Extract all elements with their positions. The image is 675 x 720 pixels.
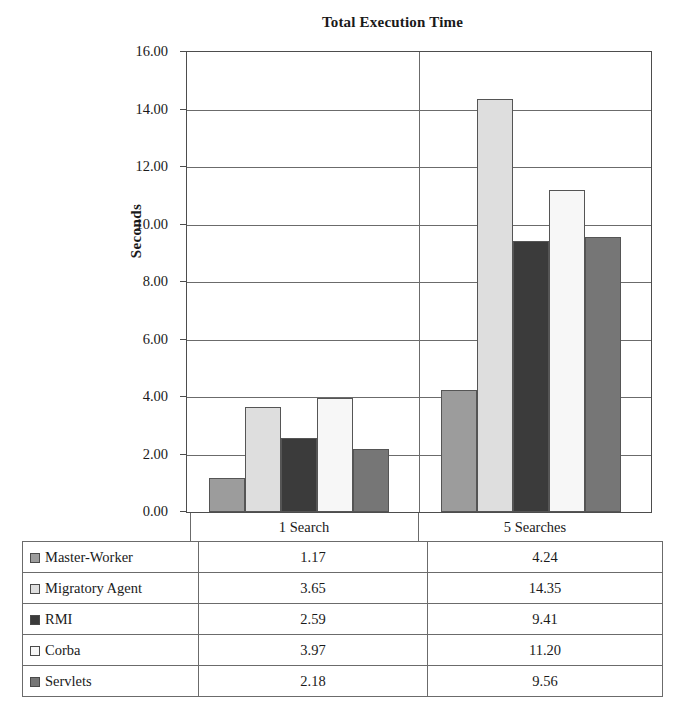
table-cell-value: 11.20 bbox=[428, 635, 663, 666]
table-cell-value: 3.65 bbox=[199, 573, 428, 604]
bar-master-worker-5-searches bbox=[441, 390, 477, 512]
table-row: Corba3.9711.20 bbox=[23, 635, 663, 666]
y-axis-tick-labels: 16.0014.0012.0010.008.006.004.002.000.00 bbox=[118, 51, 178, 513]
table-row-legend-label: RMI bbox=[23, 604, 199, 635]
y-axis-tick-label: 16.00 bbox=[135, 43, 168, 60]
legend-swatch-icon bbox=[30, 615, 40, 625]
data-table-body: Master-Worker1.174.24Migratory Agent3.65… bbox=[23, 542, 663, 697]
bar-master-worker-1-search bbox=[209, 478, 245, 512]
y-axis-tick-label: 6.00 bbox=[143, 330, 168, 347]
table-cell-value: 14.35 bbox=[428, 573, 663, 604]
table-cell-value: 9.56 bbox=[428, 666, 663, 697]
chart-figure: Total Execution Time Seconds 16.0014.001… bbox=[0, 0, 675, 720]
bar-servlets-5-searches bbox=[585, 237, 621, 512]
category-label-2: 5 Searches bbox=[418, 513, 652, 541]
legend-label-text: Corba bbox=[45, 642, 80, 658]
data-table: Master-Worker1.174.24Migratory Agent3.65… bbox=[22, 541, 663, 697]
table-row-legend-label: Corba bbox=[23, 635, 199, 666]
legend-label-text: Master-Worker bbox=[45, 549, 133, 565]
table-row-legend-label: Migratory Agent bbox=[23, 573, 199, 604]
y-axis-tick-label: 10.00 bbox=[135, 215, 168, 232]
bar-rmi-1-search bbox=[281, 438, 317, 512]
category-separator bbox=[419, 52, 420, 512]
bar-servlets-1-search bbox=[353, 449, 389, 512]
legend-label-text: Servlets bbox=[45, 673, 92, 689]
bar-migratory-agent-1-search bbox=[245, 407, 281, 512]
chart-title: Total Execution Time bbox=[0, 14, 675, 31]
table-row: Master-Worker1.174.24 bbox=[23, 542, 663, 573]
table-row: RMI2.599.41 bbox=[23, 604, 663, 635]
table-row-legend-label: Servlets bbox=[23, 666, 199, 697]
table-cell-value: 1.17 bbox=[199, 542, 428, 573]
table-cell-value: 9.41 bbox=[428, 604, 663, 635]
table-row: Servlets2.189.56 bbox=[23, 666, 663, 697]
category-column-divider bbox=[190, 513, 191, 541]
y-axis-tick-label: 4.00 bbox=[143, 388, 168, 405]
y-axis-tick-label: 12.00 bbox=[135, 158, 168, 175]
category-label-1: 1 Search bbox=[190, 513, 418, 541]
legend-label-text: RMI bbox=[45, 611, 72, 627]
bar-rmi-5-searches bbox=[513, 241, 549, 512]
bar-corba-5-searches bbox=[549, 190, 585, 512]
category-label-row: 1 Search5 Searches bbox=[22, 513, 652, 541]
category-column-divider bbox=[418, 513, 419, 541]
legend-label-text: Migratory Agent bbox=[45, 580, 142, 596]
y-axis-tick-label: 14.00 bbox=[135, 100, 168, 117]
table-cell-value: 2.59 bbox=[199, 604, 428, 635]
table-cell-value: 2.18 bbox=[199, 666, 428, 697]
legend-swatch-icon bbox=[30, 584, 40, 594]
bar-migratory-agent-5-searches bbox=[477, 99, 513, 512]
y-axis-tick-label: 8.00 bbox=[143, 273, 168, 290]
bar-corba-1-search bbox=[317, 398, 353, 512]
table-row-legend-label: Master-Worker bbox=[23, 542, 199, 573]
table-cell-value: 4.24 bbox=[428, 542, 663, 573]
table-row: Migratory Agent3.6514.35 bbox=[23, 573, 663, 604]
table-cell-value: 3.97 bbox=[199, 635, 428, 666]
y-axis-tick-label: 2.00 bbox=[143, 445, 168, 462]
legend-swatch-icon bbox=[30, 646, 40, 656]
legend-swatch-icon bbox=[30, 553, 40, 563]
plot-area bbox=[186, 51, 652, 513]
legend-swatch-icon bbox=[30, 677, 40, 687]
